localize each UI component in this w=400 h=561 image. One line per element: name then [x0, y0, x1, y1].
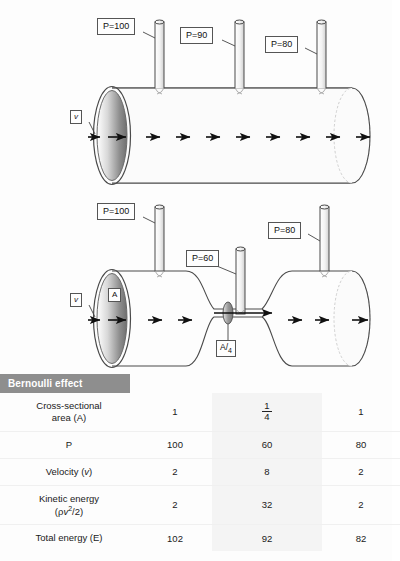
- pipe-diagrams: [0, 0, 392, 380]
- cell-velocity-col3: 2: [322, 458, 400, 485]
- a4-denominator: 4: [228, 347, 232, 354]
- pressure-label-top-1: P=100: [97, 18, 135, 35]
- top-tube-3: [317, 20, 326, 89]
- table-header-banner: Bernoulli effect: [0, 374, 130, 393]
- pressure-label-top-2: P=90: [180, 27, 213, 44]
- row-label-line2: area (A): [52, 412, 86, 423]
- row-label-line2-formula: (ρv2/2): [55, 506, 83, 517]
- area-label-A-over-4: A/4: [216, 340, 236, 357]
- row-label-area: Cross-sectional area (A): [0, 393, 138, 431]
- cell-area-col2: 1 4: [212, 393, 322, 431]
- row-label-velocity: Velocity (v): [0, 458, 138, 485]
- row-label-line1: Kinetic energy: [39, 493, 99, 504]
- cell-total-col3: 82: [322, 525, 400, 551]
- cell-velocity-col2: 8: [212, 458, 322, 485]
- leader-p80-bottom: [308, 234, 320, 241]
- table-row: Cross-sectional area (A) 1 1 4 1: [0, 393, 400, 431]
- cell-total-col2: 92: [212, 525, 322, 551]
- cell-pressure-col2: 60: [212, 431, 322, 458]
- top-tube-2: [235, 20, 244, 89]
- bottom-pipe-inlet-disc: [97, 274, 127, 364]
- row-label-kinetic-energy: Kinetic energy (ρv2/2): [0, 485, 138, 525]
- fraction-denominator: 4: [262, 412, 271, 422]
- row-label-line1: Cross-sectional: [36, 400, 101, 411]
- cell-ke-col2: 32: [212, 485, 322, 525]
- bottom-tube-1: [155, 205, 164, 271]
- top-pipe-group: [88, 20, 370, 185]
- pressure-label-bottom-1: P=100: [97, 203, 135, 220]
- fraction-one-quarter: 1 4: [262, 401, 271, 422]
- pressure-label-bottom-3: P=80: [268, 222, 301, 239]
- leader-p100-bottom: [143, 217, 155, 223]
- bottom-pipe-top-wall: [112, 271, 352, 309]
- leader-p80-top: [305, 48, 317, 54]
- table-row: P 100 60 80: [0, 431, 400, 458]
- table-row: Kinetic energy (ρv2/2) 2 32 2: [0, 485, 400, 525]
- cell-area-col1: 1: [138, 393, 212, 431]
- cell-pressure-col3: 80: [322, 431, 400, 458]
- a4-numerator: A: [220, 342, 226, 352]
- cell-velocity-col1: 2: [138, 458, 212, 485]
- row-label-pressure: P: [0, 431, 138, 458]
- table-row: Total energy (E) 102 92 82: [0, 525, 400, 551]
- velocity-label-top: v: [70, 110, 82, 124]
- bottom-tube-3: [320, 205, 329, 271]
- area-label-A: A: [108, 288, 121, 302]
- table-row: Velocity (v) 2 8 2: [0, 458, 400, 485]
- top-pipe-inlet-disc: [97, 91, 127, 181]
- leader-p90-top: [222, 40, 235, 46]
- pressure-label-top-3: P=80: [265, 36, 298, 53]
- row-label-total-energy: Total energy (E): [0, 525, 138, 551]
- pressure-label-bottom-2: P=60: [186, 250, 219, 267]
- cell-ke-col1: 2: [138, 485, 212, 525]
- velocity-label-bottom: v: [70, 293, 82, 307]
- top-tube-1: [155, 20, 164, 89]
- cell-pressure-col1: 100: [138, 431, 212, 458]
- cell-area-col3: 1: [322, 393, 400, 431]
- leader-p100-top: [143, 32, 155, 38]
- bottom-tube-2: [236, 247, 245, 314]
- cell-ke-col3: 2: [322, 485, 400, 525]
- bernoulli-table: Bernoulli effect Cross-sectional area (A…: [0, 374, 392, 551]
- cell-total-col1: 102: [138, 525, 212, 551]
